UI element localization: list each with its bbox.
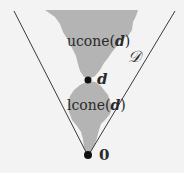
diagram-graphics: [0, 0, 184, 173]
ucone-label: ucone(d): [67, 33, 130, 49]
lcone-region: [68, 81, 112, 154]
point-d: [85, 77, 92, 84]
cone-diagram: ucone(d) lcone(d) d 0 𝒟: [0, 0, 184, 173]
domain-label: 𝒟: [128, 47, 141, 66]
point-zero-label: 0: [99, 146, 109, 164]
lcone-label: lcone(d): [67, 97, 126, 113]
point-zero: [84, 151, 92, 159]
point-d-label: d: [97, 70, 108, 88]
